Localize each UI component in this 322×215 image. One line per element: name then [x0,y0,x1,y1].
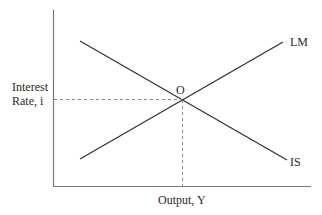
is-lm-diagram: Interest Rate, i Output, Y LM IS O [0,0,322,215]
is-label: IS [290,155,301,169]
y-axis-label-line1: Interest [12,80,48,94]
lm-curve [80,42,283,159]
y-axis-label-line2: Rate, i [12,94,43,108]
diagram-canvas [0,0,322,215]
x-axis-label: Output, Y [158,193,206,207]
is-curve [80,41,287,160]
equilibrium-label: O [176,83,185,97]
lm-label: LM [290,35,308,49]
